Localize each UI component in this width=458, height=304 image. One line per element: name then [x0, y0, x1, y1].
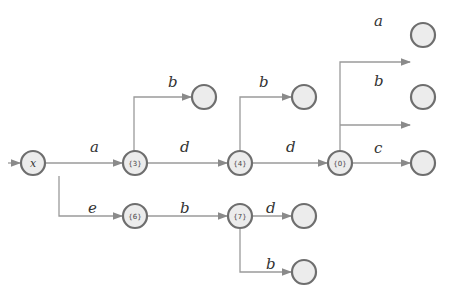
edge-label: b: [374, 72, 384, 90]
edge-label: c: [374, 139, 383, 157]
node-root: x: [21, 151, 45, 175]
edge-label: b: [266, 255, 276, 273]
leaf-node: [411, 85, 435, 109]
leaf-node: [292, 260, 316, 284]
svg-text:{7}: {7}: [233, 213, 246, 221]
leaf-node: [292, 85, 316, 109]
leaf-node: [411, 151, 435, 175]
leaf-node: [192, 85, 216, 109]
svg-text:{3}: {3}: [128, 160, 141, 168]
node-4: {4}: [228, 151, 252, 175]
trie-diagram: a b d b d a b c e b d b x {3} {4} {0}: [0, 0, 458, 304]
edge-label: b: [259, 73, 269, 91]
edge-label: a: [90, 138, 99, 156]
svg-text:{6}: {6}: [128, 213, 141, 221]
leaf-node: [292, 204, 316, 228]
edge-n4-e4b: [240, 97, 291, 151]
edge-label: b: [180, 199, 190, 217]
edge-label: d: [266, 199, 276, 217]
leaf-node: [411, 23, 435, 47]
node-6: {6}: [123, 204, 147, 228]
node-3: {3}: [123, 151, 147, 175]
node-7: {7}: [228, 204, 252, 228]
svg-text:x: x: [30, 157, 37, 170]
edge-label: d: [286, 138, 296, 156]
edge-label: e: [88, 199, 97, 217]
edge-label: d: [180, 138, 190, 156]
node-0: {0}: [328, 151, 352, 175]
edge-label: b: [168, 73, 178, 91]
svg-text:{0}: {0}: [333, 160, 346, 168]
svg-text:{4}: {4}: [233, 160, 246, 168]
edge-label: a: [374, 12, 383, 30]
edge-labels: a b d b d a b c e b d b: [88, 12, 384, 273]
